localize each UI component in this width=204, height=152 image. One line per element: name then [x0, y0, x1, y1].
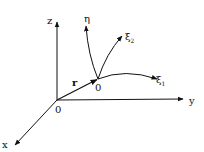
xi2-label: ξ2 — [125, 31, 135, 44]
x-axis — [15, 100, 57, 145]
xi1-curve — [98, 74, 157, 80]
xi1-label: ξ1 — [156, 74, 165, 87]
x-axis-label: x — [2, 139, 8, 150]
xi2-subscript: 2 — [131, 37, 135, 44]
eta-curve — [86, 26, 98, 79]
xi2-curve — [98, 36, 122, 79]
local-origin-label: 0 — [95, 82, 101, 93]
y-axis-label: y — [188, 95, 195, 106]
diagram-svg: z y x 0 r 0 η ξ2 ξ1 — [0, 0, 204, 152]
coordinate-diagram: z y x 0 r 0 η ξ2 ξ1 — [0, 0, 204, 152]
eta-label: η — [84, 13, 90, 24]
r-label: r — [72, 77, 78, 88]
z-axis-label: z — [47, 15, 52, 26]
y-axis — [57, 99, 183, 100]
global-origin-label: 0 — [55, 104, 61, 115]
xi1-subscript: 1 — [162, 80, 166, 87]
